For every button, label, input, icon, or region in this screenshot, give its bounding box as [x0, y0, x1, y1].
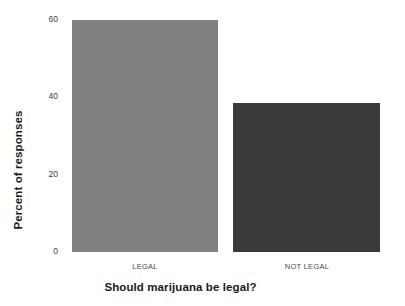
- bar-not-legal: [233, 103, 380, 252]
- y-tick-label: 0: [12, 247, 58, 256]
- y-axis-title: Percent of responses: [0, 0, 36, 306]
- plot-area: [62, 12, 392, 252]
- y-tick-label: 40: [12, 92, 58, 101]
- y-tick-label: 60: [12, 15, 58, 24]
- bar-legal: [72, 20, 218, 252]
- x-axis-title-label: Should marijuana be legal?: [104, 281, 256, 293]
- bar-chart: Percent of responses 60 40 20 0 LEGAL NO…: [0, 0, 405, 306]
- x-axis-title: Should marijuana be legal?: [0, 281, 405, 293]
- y-tick-label: 20: [12, 170, 58, 179]
- x-tick-label-legal: LEGAL: [132, 262, 158, 271]
- x-tick-label-not-legal: NOT LEGAL: [285, 262, 330, 271]
